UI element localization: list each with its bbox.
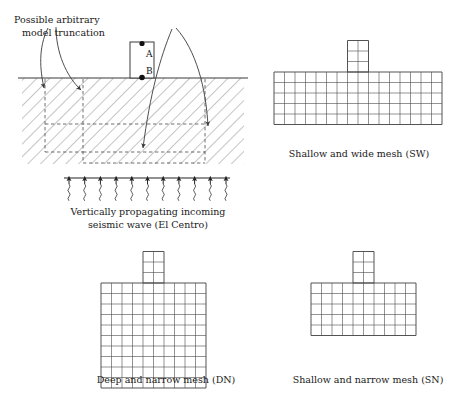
mesh-dn: [101, 252, 206, 389]
mesh-panels: [0, 0, 460, 400]
mesh-caption-dn: Deep and narrow mesh (DN): [76, 374, 256, 387]
mesh-caption-sn: Shallow and narrow mesh (SN): [278, 374, 458, 387]
mesh-sn: [311, 252, 416, 336]
mesh-caption-sw: Shallow and wide mesh (SW): [274, 148, 444, 161]
figure-root: Possible arbitrary model truncation A B …: [0, 0, 460, 400]
mesh-sw: [274, 41, 442, 125]
